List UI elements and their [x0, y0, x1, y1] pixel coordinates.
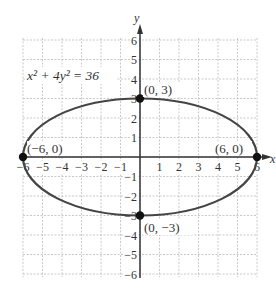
y-tick-label: 2	[131, 112, 137, 126]
ellipse-graph: y x −6−5−4−3−2−1123456654321−1−2−3−4−5−6…	[0, 0, 276, 297]
y-tick-label: 6	[131, 34, 137, 48]
y-tick-label: 5	[131, 53, 137, 67]
y-tick-label: −2	[124, 190, 137, 204]
point-bottom	[136, 211, 144, 219]
x-tick-label: −5	[36, 160, 49, 174]
y-tick-label: −4	[124, 229, 137, 243]
point-left	[19, 153, 27, 161]
equation-label: x² + 4y² = 36	[26, 68, 99, 83]
point-right	[253, 153, 261, 161]
x-tick-label: −4	[56, 160, 69, 174]
label-top: (0, 3)	[144, 82, 172, 97]
y-tick-label: −1	[124, 170, 137, 184]
x-tick-label: 1	[157, 160, 163, 174]
label-bottom: (0, −3)	[144, 220, 180, 235]
y-tick-label: 1	[131, 131, 137, 145]
x-tick-label: 3	[196, 160, 202, 174]
y-tick-label: 4	[131, 73, 137, 87]
y-tick-label: −6	[124, 268, 137, 282]
x-tick-label: 2	[176, 160, 182, 174]
y-axis-arrow-icon	[137, 24, 143, 34]
point-top	[136, 94, 144, 102]
x-tick-label: −2	[95, 160, 108, 174]
y-tick-label: −5	[124, 248, 137, 262]
x-axis-label: x	[269, 152, 276, 166]
y-axis-label: y	[133, 11, 140, 25]
x-tick-label: 4	[215, 160, 221, 174]
label-left: (−6, 0)	[27, 141, 63, 156]
x-tick-label: −3	[75, 160, 88, 174]
label-right: (6, 0)	[215, 141, 243, 156]
x-tick-label: 5	[235, 160, 241, 174]
